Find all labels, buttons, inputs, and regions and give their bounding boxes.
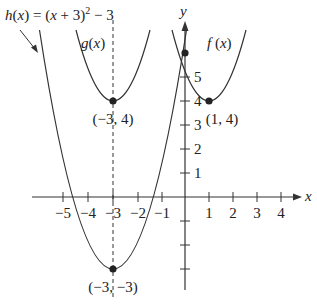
svg-text:−1: −1 [154,205,170,221]
x-axis-label: x [304,188,312,204]
pointer-line [20,30,35,49]
point-y-intercept [181,49,188,56]
x-axis-arrow-icon [293,194,302,201]
svg-text:3: 3 [253,205,261,221]
svg-text:1: 1 [194,165,202,181]
svg-text:3: 3 [194,117,202,133]
svg-text:5: 5 [194,69,202,85]
g-label: g(x) [81,35,105,52]
f-label: f (x) [207,35,232,52]
y-tick-labels: 5 4 3 2 1 [194,69,202,181]
svg-text:−3: −3 [105,205,121,221]
point-g-label: (−3, 4) [93,111,134,128]
y-axis-arrow-icon [182,21,189,31]
svg-text:−5: −5 [55,205,71,221]
point-h-label: (−3, −3) [88,279,137,296]
x-tick-labels: −5 −4 −3 −2 −1 1 2 3 4 [55,205,285,221]
svg-text:2: 2 [194,141,202,157]
svg-text:−4: −4 [80,205,96,221]
svg-text:2: 2 [229,205,237,221]
point-f-vertex [205,97,212,104]
point-h-vertex [109,265,116,272]
point-f-label: (1, 4) [206,111,239,128]
y-axis-label: y [178,3,187,19]
point-g-vertex [109,97,116,104]
graph: h(x) = (x + 3)2 − 3 g(x) f (x) x y −5 −4… [0,0,317,306]
svg-text:1: 1 [205,205,213,221]
svg-text:4: 4 [194,93,202,109]
h-equation: h(x) = (x + 3)2 − 3 [5,5,114,24]
svg-text:4: 4 [277,205,285,221]
svg-text:−2: −2 [130,205,146,221]
